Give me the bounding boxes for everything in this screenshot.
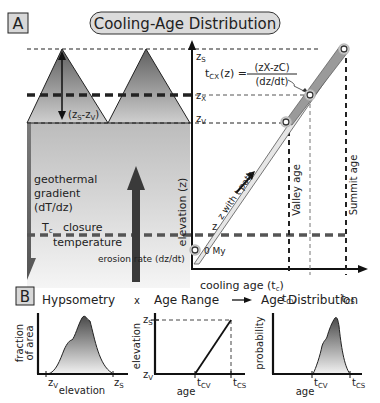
- panel-a: A Cooling-Age Distribution (zS-zV) geoth…: [8, 12, 368, 306]
- age-distribution-curve: [313, 317, 350, 374]
- range-tcv: tCV: [197, 377, 211, 390]
- panel-b-label: B: [20, 288, 30, 306]
- header-age-distribution: Age Distribution: [261, 293, 358, 307]
- hyps-zv: zV: [48, 377, 58, 390]
- hyps-ylabel-2: of area: [24, 325, 35, 360]
- hypsometry-chart: fraction of area zV zS elevation: [14, 313, 128, 396]
- valley-age-label: Valley age: [291, 164, 302, 216]
- summit-marker: [339, 44, 349, 54]
- dist-tcv: tCV: [314, 377, 328, 390]
- panel-a-label: A: [13, 14, 24, 33]
- zx-label: zX: [196, 90, 206, 103]
- header-hypsometry: Hypsometry: [42, 293, 115, 307]
- summit-age-label: Summit age: [348, 155, 359, 216]
- panel-b: B Hypsometry x Age Range Age Distributio…: [14, 287, 366, 397]
- temperature-label: temperature: [53, 236, 122, 249]
- header-times: x: [134, 295, 140, 306]
- formula-lhs: tCX(z) =: [205, 67, 247, 81]
- formula-denominator: (dz/dt): [255, 76, 288, 87]
- geothermal-label-3: (dT/dz): [34, 201, 73, 214]
- formula-numerator: (zX-zC): [254, 62, 289, 73]
- dist-tcs: tCS: [352, 377, 366, 390]
- geothermal-label-1: geothermal: [34, 173, 97, 186]
- zs-label: zS: [196, 51, 206, 64]
- age-distribution-chart: probability tCV tCS age: [254, 313, 366, 397]
- valley-marker: [281, 117, 291, 127]
- closure-label: closure: [63, 221, 103, 234]
- dist-xlabel: age: [296, 386, 315, 397]
- zero-age-label: 0 My: [204, 246, 226, 256]
- age-range-line: [195, 320, 231, 374]
- hyps-zs: zS: [114, 377, 124, 390]
- hypsometry-curve: [48, 316, 112, 374]
- erosion-rate-label: erosion rate (dz/dt): [98, 254, 185, 264]
- range-tcs: tCS: [233, 377, 247, 390]
- y-axis-label: elevation (z): [176, 178, 189, 247]
- range-ylabel: elevation: [131, 323, 142, 369]
- geothermal-label-2: gradient: [34, 187, 81, 200]
- path-label: z with t path: [215, 169, 256, 221]
- diagram-title: Cooling-Age Distribution: [94, 15, 277, 33]
- zx-marker: [305, 90, 315, 100]
- range-xlabel: age: [177, 386, 196, 397]
- cooling-age-diagram: A Cooling-Age Distribution (zS-zV) geoth…: [0, 0, 380, 403]
- range-zv: zV: [143, 369, 153, 382]
- zero-marker: [190, 245, 200, 255]
- cooling-path-upper: [284, 46, 348, 125]
- mountain-peak-2: [108, 49, 190, 123]
- dist-ylabel: probability: [254, 316, 265, 369]
- zv-label: zV: [196, 113, 206, 126]
- age-range-chart: elevation zS zV tCV tCS age: [131, 313, 247, 397]
- range-zs: zS: [143, 314, 153, 327]
- x-axis-label: cooling age (tc): [200, 279, 284, 293]
- header-age-range: Age Range: [154, 293, 219, 307]
- hyps-xlabel: elevation: [59, 385, 105, 396]
